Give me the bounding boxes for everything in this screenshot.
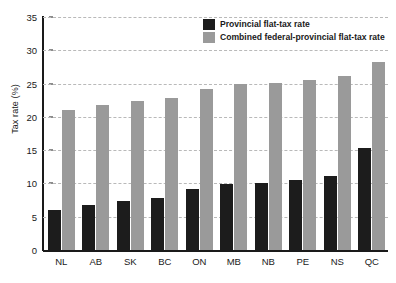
bar-combined [269, 83, 282, 250]
bar-group [324, 17, 351, 250]
bar-group [289, 17, 316, 250]
bar-combined [200, 89, 213, 250]
bar-combined [96, 105, 109, 250]
y-axis-tick-label: 15 [11, 145, 37, 156]
y-axis-tick-label: 30 [11, 45, 37, 56]
legend-item-combined: Combined federal-provincial flat-tax rat… [203, 32, 385, 43]
legend-swatch-icon-provincial [203, 19, 215, 30]
y-axis-tick-label: 25 [11, 78, 37, 89]
legend-label-combined: Combined federal-provincial flat-tax rat… [220, 32, 385, 43]
bar-combined [165, 98, 178, 250]
bar-provincial [151, 198, 164, 250]
bar-combined [303, 80, 316, 250]
bar-combined [131, 101, 144, 250]
bar-group [220, 17, 247, 250]
bar-group [117, 17, 144, 250]
bar-provincial [220, 184, 233, 250]
bar-provincial [324, 176, 337, 250]
legend-label-provincial: Provincial flat-tax rate [220, 19, 310, 30]
legend-swatch-icon-combined [203, 32, 215, 43]
bar-combined [372, 62, 385, 250]
bar-group [358, 17, 385, 250]
bar-group [151, 17, 178, 250]
bar-chart: Tax rate (%) 05101520253035 Provincial f… [0, 0, 396, 283]
x-axis-line [43, 250, 388, 252]
bar-provincial [117, 201, 130, 250]
y-axis-tick-label: 5 [11, 211, 37, 222]
bar-group [82, 17, 109, 250]
bar-provincial [358, 148, 371, 250]
bar-provincial [255, 183, 268, 250]
bar-combined [62, 110, 75, 250]
bar-group [48, 17, 75, 250]
y-axis-tick-labels: 05101520253035 [7, 17, 37, 250]
chart-legend: Provincial flat-tax rate Combined federa… [203, 19, 385, 45]
x-axis-tick-label: QC [352, 256, 392, 267]
bar-provincial [82, 205, 95, 250]
bar-combined [338, 76, 351, 250]
plot-area [43, 17, 388, 250]
bar-group [186, 17, 213, 250]
bar-provincial [186, 189, 199, 250]
y-axis-tick-label: 10 [11, 178, 37, 189]
bar-provincial [289, 180, 302, 250]
y-axis-tick-label: 35 [11, 12, 37, 23]
y-axis-tick-label: 20 [11, 111, 37, 122]
legend-item-provincial: Provincial flat-tax rate [203, 19, 385, 30]
y-axis-tick-label: 0 [11, 245, 37, 256]
bar-combined [234, 84, 247, 250]
bar-provincial [48, 210, 61, 250]
bar-group [255, 17, 282, 250]
